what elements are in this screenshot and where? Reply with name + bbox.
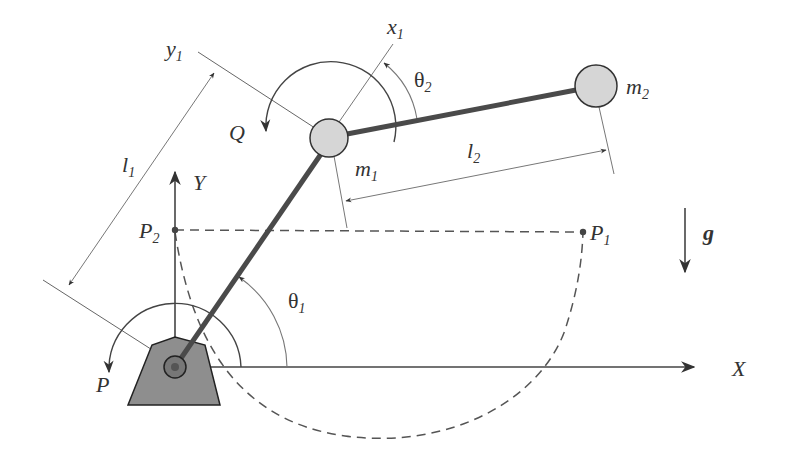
mass-1 [310, 119, 348, 157]
y1-axis-upper [198, 52, 318, 130]
theta2-arc [384, 63, 417, 119]
theta1-arc [239, 277, 287, 367]
x1-label: x1 [386, 14, 404, 42]
m1-label: m1 [355, 156, 378, 184]
link-2 [347, 90, 576, 134]
x1-axis [339, 44, 393, 122]
m1-drop-line [334, 156, 347, 228]
torque-p-label: P [95, 372, 109, 397]
mass-2 [575, 65, 617, 107]
gravity-label: g [702, 220, 714, 245]
m2-drop-line [599, 107, 614, 174]
two-link-arm-diagram: X Y y1 x1 l1 l2 m1 m2 θ1 θ2 P Q P2 P1 g [0, 0, 789, 459]
theta2-label: θ2 [414, 67, 432, 95]
y1-label: y1 [164, 36, 183, 64]
p1-label: P1 [589, 220, 610, 248]
theta1-label: θ1 [288, 288, 306, 316]
point-p1 [580, 229, 586, 235]
l1-label: l1 [122, 152, 135, 180]
y1-axis [43, 280, 168, 360]
x-axis-label: X [731, 356, 747, 381]
l2-label: l2 [467, 138, 480, 166]
trajectory-path [175, 230, 583, 438]
p2-label: P2 [138, 218, 159, 246]
m2-label: m2 [626, 74, 649, 102]
y-axis-label: Y [193, 170, 208, 195]
torque-q-label: Q [229, 120, 245, 145]
base-pin [171, 363, 179, 371]
point-p2 [172, 227, 178, 233]
